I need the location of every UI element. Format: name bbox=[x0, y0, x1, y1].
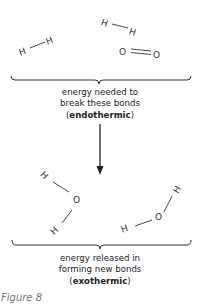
svg-text:O: O bbox=[119, 47, 126, 57]
endothermic-label: endothermic bbox=[69, 110, 130, 120]
svg-text:H: H bbox=[99, 17, 109, 29]
svg-text:H: H bbox=[38, 169, 50, 181]
reaction-arrow bbox=[97, 124, 104, 175]
h2-molecule-left: H H bbox=[17, 35, 54, 58]
exothermic-caption: energy released in forming new bonds (ex… bbox=[0, 253, 200, 287]
endothermic-caption: energy needed to break these bonds (endo… bbox=[0, 87, 200, 121]
caption-line: break these bonds bbox=[0, 98, 200, 109]
figure-label: Figure 8 bbox=[1, 292, 42, 303]
caption-line: energy needed to bbox=[0, 87, 200, 98]
caption-line: (exothermic) bbox=[0, 276, 200, 287]
svg-text:H: H bbox=[171, 184, 183, 195]
svg-text:O: O bbox=[153, 50, 160, 60]
svg-text:H: H bbox=[127, 26, 137, 38]
caption-line: (endothermic) bbox=[0, 110, 200, 121]
svg-text:H: H bbox=[48, 225, 60, 237]
caption-line: forming new bonds bbox=[0, 264, 200, 275]
svg-text:H: H bbox=[17, 46, 27, 58]
caption-line: energy released in bbox=[0, 253, 200, 264]
exothermic-label: exothermic bbox=[73, 276, 128, 286]
svg-text:O: O bbox=[73, 195, 80, 205]
svg-text:H: H bbox=[119, 223, 129, 235]
o2-molecule: O O bbox=[119, 47, 160, 60]
top-brace bbox=[11, 76, 191, 84]
h2o-molecule-left: H O H bbox=[38, 169, 80, 236]
h2-molecule-right: H H bbox=[99, 17, 137, 38]
bottom-brace bbox=[12, 240, 191, 249]
svg-text:H: H bbox=[44, 35, 54, 47]
h2o-molecule-right: H O H bbox=[119, 184, 183, 234]
svg-text:O: O bbox=[155, 212, 162, 222]
